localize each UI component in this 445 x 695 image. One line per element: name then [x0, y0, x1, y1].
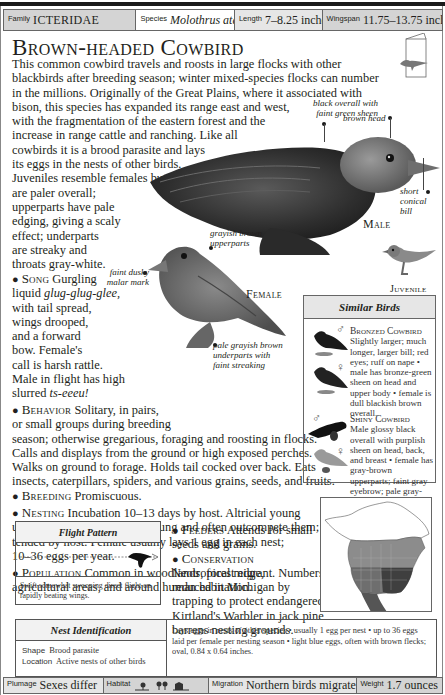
length-label: Length: [239, 14, 262, 23]
behavior-text: season; otherwise gregarious, foraging a…: [12, 432, 312, 446]
habitat-label: Habitat: [107, 679, 131, 688]
family-cell: Family ICTERIDAE: [4, 10, 136, 30]
behavior-text: or small groups during breeding: [12, 417, 312, 431]
behavior-text: insects, caterpillars, spiders, and vari…: [12, 474, 312, 488]
flight-call: ts-eeeu!: [50, 386, 89, 400]
species-cell: Species Molothrus ater: [136, 10, 235, 30]
song-text: bow. Female's: [12, 343, 152, 357]
species-label: Species: [140, 14, 167, 23]
field-guide-page: Family ICTERIDAE Species Molothrus ater …: [0, 0, 445, 695]
nest-shape-label: Shape: [22, 646, 45, 655]
plumage-cell: Plumage Sexes differ: [4, 678, 104, 693]
range-map: [320, 497, 432, 612]
song-text: with tail spread,: [12, 301, 152, 315]
song-text: wings drooped,: [12, 315, 152, 329]
female-symbol: ♀: [336, 444, 345, 459]
conservation-heading: Conservation: [182, 551, 254, 566]
callout-leader: [324, 124, 325, 142]
flight-pattern-diagram: [16, 543, 160, 577]
intro-line: bison, this species has expanded its ran…: [12, 100, 302, 114]
similar-birds-panel: Similar Birds ♂ ♀ Bronzed Cowbird Slight…: [303, 295, 436, 483]
song-heading: Song: [22, 271, 50, 286]
wingspan-label: Wingspan: [327, 14, 360, 23]
weight-value: 1.7 ounces: [387, 678, 438, 693]
callout-male-bill: short conical bill: [400, 186, 436, 216]
bullet-icon: ●: [12, 507, 19, 519]
callout-dot: [426, 190, 430, 194]
top-rule: [0, 2, 445, 6]
bullet-icon: ●: [172, 524, 179, 536]
feeders-text: seeds and grains.: [172, 537, 322, 551]
habitat-cell: Habitat: [104, 678, 210, 693]
feeders-heading: Feeders: [182, 522, 225, 537]
wingspan-cell: Wingspan 11.75–13.75 inches: [323, 10, 442, 30]
breeding-section: ●Breeding Promiscuous.: [12, 489, 302, 503]
behavior-heading: Behavior: [22, 402, 72, 417]
behavior-text: Solitary, in pairs,: [74, 403, 159, 417]
intro-line: This common cowbird travels and roosts i…: [12, 57, 302, 71]
species-value: Molothrus ater: [170, 13, 235, 28]
nest-identification-title: Nest Identification: [16, 620, 166, 641]
song-text: Gurgling: [52, 272, 97, 286]
length-value: 7–8.25 inches: [265, 13, 323, 28]
open-country-icon: [135, 682, 149, 690]
farmland-icon: [173, 682, 189, 690]
wingspan-value: 11.75–13.75 inches: [363, 13, 442, 28]
callout-female-upperparts: grayish brown upperparts: [210, 228, 270, 248]
song-section: ●Song Gurgling liquid glug-glug-glee, wi…: [12, 272, 152, 401]
similar-bird-name: Shiny Cowbird: [350, 414, 410, 424]
migration-value: Northern birds migrate: [246, 678, 356, 693]
male-symbol: ♂: [312, 411, 321, 426]
behavior-text: Walks on ground to forage. Holds tail co…: [12, 460, 312, 474]
juvenile-cowbird-illustration: [382, 238, 438, 282]
plumage-value: Sexes differ: [40, 678, 97, 693]
song-text: slurred: [12, 386, 46, 400]
similar-bird-name: Bronzed Cowbird: [350, 326, 422, 336]
callout-dot: [213, 343, 217, 347]
nest-shape-value: Brood parasite: [49, 645, 99, 655]
nest-location-value: Active nests of other birds: [56, 656, 146, 666]
nest-location-label: Location: [22, 657, 52, 666]
breeding-text: Promiscuous.: [75, 489, 142, 503]
habitat-icons: [133, 680, 195, 692]
perching-bird-book-icon: [400, 33, 430, 78]
similar-birds-title: Similar Birds: [304, 296, 435, 319]
bullet-icon: ●: [12, 404, 19, 416]
bullet-icon: ●: [12, 490, 19, 502]
breeding-heading: Breeding: [22, 488, 72, 503]
nest-identification-summary: Nest Identification Shape Brood parasite…: [16, 620, 167, 676]
callout-female-malar: faint dusky malar mark: [103, 267, 149, 287]
weight-label: Weight: [360, 679, 383, 688]
female-caption: Female: [246, 287, 282, 302]
male-symbol: ♂: [336, 322, 345, 337]
family-value: ICTERIDAE: [33, 13, 99, 28]
song-text: Male in flight has high: [12, 372, 152, 386]
left-rule: [0, 6, 1, 695]
song-text: call is harsh rattle.: [12, 358, 152, 372]
family-label: Family: [8, 14, 30, 23]
callout-leader: [423, 158, 424, 190]
nest-description: Lays eggs in nests of other species • us…: [167, 620, 436, 676]
conservation-text: reduced in Michigan by: [172, 580, 322, 594]
length-cell: Length 7–8.25 inches: [235, 10, 323, 30]
plumage-label: Plumage: [7, 679, 37, 688]
migration-label: Migration: [212, 679, 243, 688]
flight-pattern-title: Flight Pattern: [16, 522, 160, 543]
similar-bird-entry: Bronzed Cowbird Slightly larger; much lo…: [350, 326, 434, 419]
intro-line: blackbirds after breeding season; winter…: [12, 71, 302, 85]
bullet-icon: ●: [12, 273, 19, 285]
juvenile-caption: Juvenile: [390, 283, 427, 294]
flight-path-icon: [16, 543, 160, 577]
callout-leader: [390, 118, 391, 138]
right-rule: [442, 6, 443, 678]
bullet-icon: ●: [172, 553, 179, 565]
behavior-text: Calls and displays from the ground or hi…: [12, 446, 312, 460]
flight-pattern-description: Swift somewhat swooping direct flight on…: [16, 577, 160, 604]
conservation-text: Neotropical migrant. Numbers: [172, 566, 322, 580]
nest-identification-panel: Nest Identification Shape Brood parasite…: [15, 619, 437, 677]
feeders-text: Attends for small: [227, 523, 313, 537]
male-caption: Male: [363, 217, 390, 232]
north-america-range-map: [321, 498, 432, 612]
callout-male-head: brown head: [343, 113, 403, 123]
nesting-text: Incubation 10–13 days by host. Altricial…: [68, 506, 301, 520]
